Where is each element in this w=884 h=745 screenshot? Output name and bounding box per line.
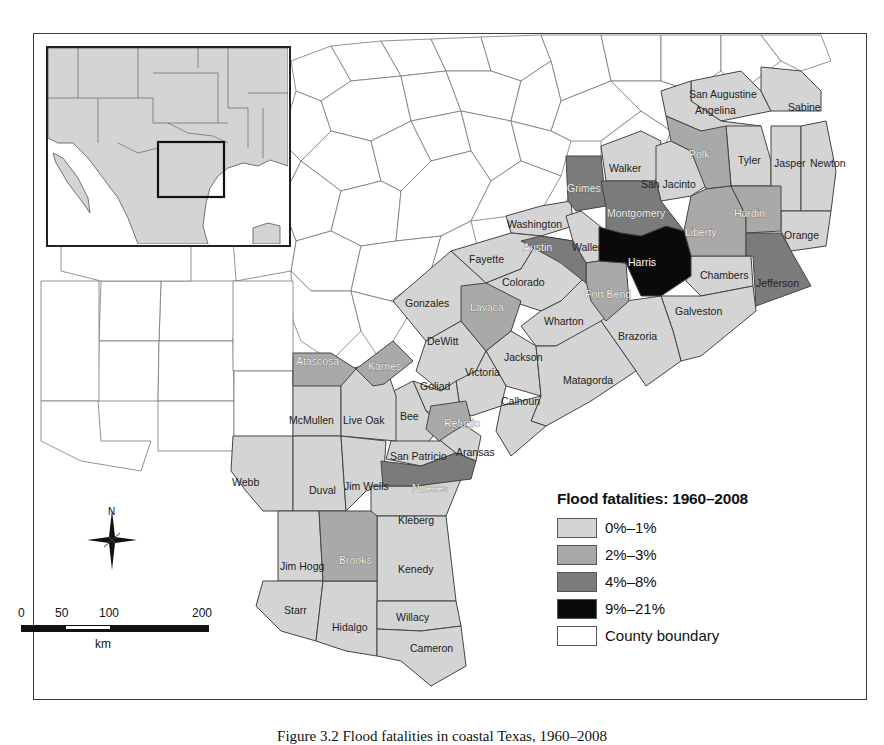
svg-text:Fort Bend: Fort Bend: [585, 288, 631, 300]
legend-item: 0%–1%: [557, 514, 827, 541]
svg-text:Calhoun: Calhoun: [501, 395, 540, 407]
north-arrow-icon: [82, 505, 142, 575]
svg-text:Orange: Orange: [784, 229, 819, 241]
svg-text:San Jacinto: San Jacinto: [641, 178, 696, 190]
svg-text:Kleberg: Kleberg: [398, 514, 434, 526]
scale-bar-segment: [66, 626, 110, 629]
legend-item: 2%–3%: [557, 541, 827, 568]
svg-text:Duval: Duval: [309, 484, 336, 496]
svg-text:Hidalgo: Hidalgo: [332, 621, 368, 633]
svg-text:Washington: Washington: [507, 218, 562, 230]
svg-text:Liberty: Liberty: [685, 226, 717, 238]
scale-bar: 0 50 100 200 km: [18, 606, 238, 666]
legend-title: Flood fatalities: 1960–2008: [557, 490, 827, 508]
legend: Flood fatalities: 1960–2008 0%–1% 2%–3% …: [557, 490, 827, 649]
svg-text:Starr: Starr: [284, 604, 307, 616]
svg-text:Jasper: Jasper: [774, 157, 806, 169]
svg-text:Refugio: Refugio: [444, 417, 480, 429]
svg-text:Fayette: Fayette: [469, 253, 504, 265]
svg-text:Jim Hogg: Jim Hogg: [280, 560, 325, 572]
svg-text:Galveston: Galveston: [675, 305, 722, 317]
svg-text:Harris: Harris: [628, 256, 656, 268]
svg-text:Hardin: Hardin: [734, 207, 765, 219]
legend-item: 9%–21%: [557, 595, 827, 622]
legend-item: County boundary: [557, 622, 827, 649]
svg-text:Sabine: Sabine: [788, 101, 821, 113]
legend-label: 2%–3%: [605, 546, 657, 563]
svg-text:Wharton: Wharton: [544, 315, 584, 327]
svg-text:Goliad: Goliad: [420, 380, 451, 392]
legend-swatch-9-21: [557, 599, 597, 619]
legend-item: 4%–8%: [557, 568, 827, 595]
legend-swatch-4-8: [557, 572, 597, 592]
svg-text:Gonzales: Gonzales: [405, 297, 449, 309]
svg-text:Jackson: Jackson: [504, 351, 543, 363]
county-kenedy: [377, 516, 456, 601]
svg-text:Bee: Bee: [400, 410, 419, 422]
svg-text:Angelina: Angelina: [695, 104, 736, 116]
svg-text:San Patricio: San Patricio: [390, 450, 447, 462]
svg-text:Live Oak: Live Oak: [343, 414, 385, 426]
legend-swatch-county-boundary: [557, 626, 597, 646]
svg-text:Tyler: Tyler: [738, 154, 761, 166]
svg-text:Cameron: Cameron: [410, 642, 453, 654]
legend-label: 9%–21%: [605, 600, 665, 617]
svg-text:Webb: Webb: [232, 476, 259, 488]
svg-text:Kenedy: Kenedy: [398, 563, 434, 575]
svg-text:Colorado: Colorado: [502, 276, 545, 288]
county-brooks: [319, 511, 377, 581]
svg-text:Willacy: Willacy: [396, 611, 430, 623]
svg-text:Austin: Austin: [523, 241, 552, 253]
scale-unit: km: [95, 637, 111, 651]
svg-text:Aransas: Aransas: [456, 446, 495, 458]
svg-text:McMullen: McMullen: [289, 414, 334, 426]
svg-text:Montgomery: Montgomery: [607, 207, 666, 219]
svg-text:DeWitt: DeWitt: [427, 335, 459, 347]
svg-text:Matagorda: Matagorda: [563, 374, 613, 386]
svg-text:Victoria: Victoria: [465, 366, 500, 378]
figure-caption: Figure 3.2 Flood fatalities in coastal T…: [0, 728, 884, 745]
county-duval: [293, 436, 346, 511]
legend-label: 4%–8%: [605, 573, 657, 590]
svg-text:Jim Wells: Jim Wells: [344, 480, 389, 492]
scale-tick-200: 200: [192, 606, 212, 620]
legend-swatch-0-1: [557, 518, 597, 538]
scale-tick-50: 50: [55, 606, 68, 620]
svg-text:Lavaca: Lavaca: [470, 301, 504, 313]
svg-text:Waller: Waller: [572, 241, 602, 253]
inset-locator-map: [46, 46, 291, 247]
scale-tick-100: 100: [99, 606, 119, 620]
svg-text:Atascosa: Atascosa: [296, 355, 339, 367]
inset-svg: [48, 48, 288, 244]
svg-text:Brazoria: Brazoria: [618, 330, 657, 342]
svg-text:Walker: Walker: [609, 162, 642, 174]
svg-text:Polk: Polk: [689, 148, 710, 160]
scale-bar-graphic: [21, 625, 209, 632]
svg-text:San Augustine: San Augustine: [689, 88, 757, 100]
scale-tick-0: 0: [18, 606, 25, 620]
svg-text:Brooks: Brooks: [339, 554, 372, 566]
svg-text:Nueces: Nueces: [412, 482, 448, 494]
legend-label: 0%–1%: [605, 519, 657, 536]
legend-label: County boundary: [605, 627, 719, 644]
svg-text:Jefferson: Jefferson: [756, 277, 799, 289]
svg-text:Grimes: Grimes: [567, 182, 601, 194]
legend-swatch-2-3: [557, 545, 597, 565]
svg-text:Chambers: Chambers: [700, 269, 748, 281]
svg-text:Newton: Newton: [810, 157, 846, 169]
svg-text:Karnes: Karnes: [368, 360, 401, 372]
